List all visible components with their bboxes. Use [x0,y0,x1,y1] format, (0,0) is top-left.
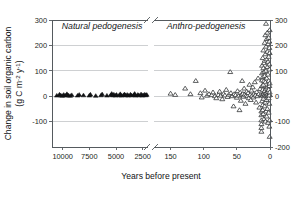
data-point-open-triangle [203,88,208,92]
x-tick-label: 0 [268,152,272,161]
y-axis-title-line1: Change in soil organic carbon [3,26,13,140]
data-point-open-triangle [217,89,222,93]
data-point-open-triangle [210,90,215,94]
data-point-open-triangle [252,80,257,84]
y-tick-label-right: 300 [275,16,287,25]
panel-label-natural: Natural pedogenesis [62,21,143,31]
x-tick-label: 2500 [134,152,150,161]
data-point-open-triangle [183,86,188,90]
data-point-open-triangle [243,101,248,105]
x-tick-label: 5000 [108,152,124,161]
y-tick-label-right: 100 [275,67,287,76]
x-tick-label: 7500 [81,152,97,161]
data-point-open-triangle [193,79,198,83]
y-tick-label-left: 0 [43,92,47,101]
data-point-open-triangle [264,21,269,25]
chart-figure: 3002001000-1003002001000-100-20010000750… [0,0,300,198]
data-point-open-triangle [228,70,233,74]
data-point-open-triangle [240,79,245,83]
y-tick-label-left: -100 [32,117,47,126]
data-point-open-triangle [261,48,266,52]
data-point-open-triangle [247,82,252,86]
data-point-open-triangle [173,93,178,97]
x-tick-label: 150 [164,152,176,161]
y-tick-label-right: 0 [275,92,279,101]
y-tick-label-left: 100 [35,67,47,76]
data-point-open-triangle [168,91,173,95]
data-point-open-triangle [254,100,259,104]
data-point-open-triangle [237,108,242,112]
y-tick-label-right: -200 [275,143,290,152]
data-point-filled-triangle [93,94,98,98]
data-point-open-triangle [267,124,272,128]
data-point-open-triangle [224,87,229,91]
y-tick-label-right: 200 [275,41,287,50]
x-tick-label: 10000 [52,152,73,161]
y-axis-title-line2: (g C m-2 y-1) [14,60,24,107]
x-axis-title: Years before present [121,171,201,181]
scatter-plot: 3002001000-1003002001000-100-20010000750… [0,0,300,198]
data-point-open-triangle [188,92,193,96]
data-point-open-triangle [199,95,204,99]
y-axis-title: Change in soil organic carbon(g C m-2 y-… [3,26,24,140]
panel-label-anthro: Anthro-pedogenesis [166,21,246,31]
y-tick-label-left: 300 [35,16,47,25]
data-point-open-triangle [256,76,261,80]
y-tick-label-right: -100 [275,117,290,126]
x-tick-label: 50 [233,152,241,161]
data-point-filled-triangle [81,93,86,97]
data-point-open-triangle [198,91,203,95]
x-tick-label: 100 [198,152,210,161]
y-tick-label-left: 200 [35,41,47,50]
data-point-open-triangle [242,86,247,90]
data-point-open-triangle [231,104,236,108]
data-point-open-triangle [259,129,264,133]
